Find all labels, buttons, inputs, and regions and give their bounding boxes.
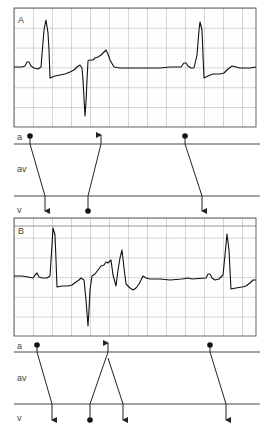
row-label-av: av — [17, 373, 27, 383]
conduction-arrow — [210, 345, 226, 420]
conduction-arrow — [37, 345, 52, 420]
retrograde-arrow — [88, 135, 101, 211]
row-label-v: v — [17, 205, 22, 215]
ladder-diagram-b: a av v — [14, 341, 260, 423]
panel-label-a: A — [18, 15, 24, 25]
row-label-v: v — [17, 413, 22, 423]
ladder-diagram-a: a av v — [14, 132, 260, 226]
conduction-arrow — [30, 136, 45, 211]
row-label-av: av — [17, 164, 27, 174]
ecg-strip-a: A — [14, 8, 256, 127]
ecg-ladder-diagram: A a av v B a av v — [0, 0, 271, 433]
row-label-a: a — [17, 132, 22, 142]
panel-label-b: B — [18, 226, 24, 236]
conduction-arrow — [185, 136, 202, 211]
ecg-strip-b: B — [14, 218, 256, 336]
retrograde-arrow — [90, 343, 108, 420]
row-label-a: a — [17, 341, 22, 351]
echo-arrow — [108, 358, 123, 420]
